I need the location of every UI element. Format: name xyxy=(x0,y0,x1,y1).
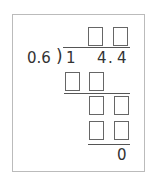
division-bracket: ) xyxy=(56,49,63,64)
divisor: 0.6 xyxy=(27,51,51,66)
dividend-decimal-point: . xyxy=(108,51,113,66)
quotient-box-2[interactable] xyxy=(113,27,128,46)
step2-box-1[interactable] xyxy=(89,96,104,115)
dividend-digit-2: 4 xyxy=(97,51,107,66)
division-bar xyxy=(63,47,130,48)
step3-box-2[interactable] xyxy=(114,121,129,140)
quotient-box-1[interactable] xyxy=(88,27,103,46)
subtraction-line-1 xyxy=(64,93,130,94)
remainder: 0 xyxy=(117,148,127,163)
step3-box-1[interactable] xyxy=(89,121,104,140)
subtraction-line-2 xyxy=(88,144,130,145)
dividend-digit-1: 1 xyxy=(66,51,76,66)
step2-box-2[interactable] xyxy=(114,96,129,115)
dividend-digit-3: 4 xyxy=(117,51,127,66)
step1-box-1[interactable] xyxy=(65,72,80,91)
step1-box-2[interactable] xyxy=(89,72,104,91)
